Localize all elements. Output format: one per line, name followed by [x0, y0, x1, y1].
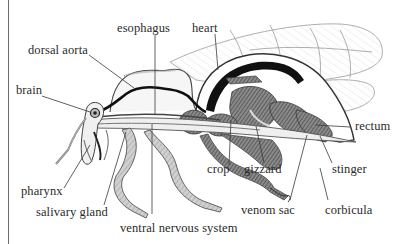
label-corbicula: corbicula	[325, 204, 372, 217]
label-esophagus: esophagus	[117, 22, 170, 35]
leader-brain	[42, 96, 90, 112]
head	[81, 102, 103, 164]
label-pharynx: pharynx	[21, 185, 63, 198]
leader-venom-sac	[290, 135, 307, 200]
thorax-outline	[110, 69, 196, 112]
bee-anatomy-diagram: esophagus heart dorsal aorta brain rectu…	[0, 0, 406, 244]
label-ventral-nervous-system: ventral nervous system	[120, 222, 237, 235]
label-crop: crop	[207, 163, 230, 176]
label-stinger: stinger	[332, 163, 367, 176]
label-salivary-gland: salivary gland	[36, 206, 108, 219]
leader-corbicula	[320, 168, 328, 200]
leader-dorsal-aorta	[89, 55, 134, 88]
label-heart: heart	[192, 22, 217, 35]
label-dorsal-aorta: dorsal aorta	[28, 44, 88, 57]
label-brain: brain	[16, 84, 42, 97]
label-rectum: rectum	[355, 120, 390, 133]
label-venom-sac: venom sac	[241, 204, 295, 217]
label-gizzard: gizzard	[244, 163, 281, 176]
